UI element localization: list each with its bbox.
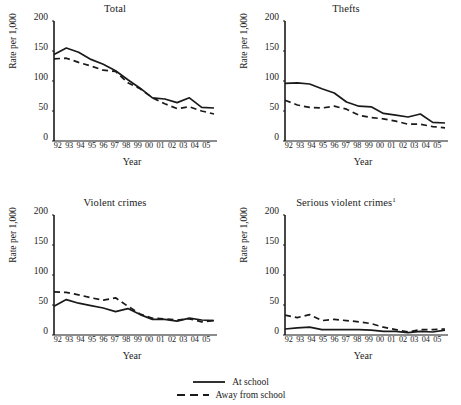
y-axis-tick-label: 150 (255, 236, 279, 246)
y-axis-tick-label: 150 (255, 42, 279, 52)
x-axis-tick-label: 04 (189, 141, 200, 150)
plot-svg (52, 18, 220, 144)
y-axis-tick-labels: 200150100500 (251, 212, 279, 332)
y-axis-tick-label: 50 (24, 296, 48, 306)
x-axis-tick-label: 96 (98, 335, 109, 344)
x-axis-tick-label: 99 (363, 335, 374, 344)
y-axis-tick-labels: 200150100500 (20, 212, 48, 332)
chart-panel-3: Violent crimesRate per 1,000200150100500… (0, 196, 230, 382)
plot-area (283, 212, 443, 332)
x-axis-tick-label: 97 (340, 141, 351, 150)
panel-title-footnote-marker: 1 (392, 196, 396, 204)
y-axis-tick-labels: 200150100500 (251, 18, 279, 138)
x-axis-tick-label: 96 (98, 141, 109, 150)
x-axis-tick-label: 98 (352, 141, 363, 150)
x-axis-tick-label: 04 (420, 141, 431, 150)
y-axis-label: Rate per 1,000 (8, 192, 18, 278)
y-axis-tick-label: 50 (255, 102, 279, 112)
x-axis-tick-label: 92 (52, 335, 63, 344)
y-axis-tick-label: 0 (24, 326, 48, 336)
x-axis-tick-label: 05 (431, 335, 442, 344)
plot-area (52, 18, 212, 138)
y-axis-tick-label: 0 (24, 132, 48, 142)
y-axis-tick-label: 100 (24, 72, 48, 82)
x-axis-tick-label: 02 (166, 335, 177, 344)
x-axis-tick-label: 92 (283, 141, 294, 150)
y-axis-tick-label: 100 (255, 266, 279, 276)
x-axis-tick-label: 98 (121, 335, 132, 344)
x-axis-label: Year (283, 350, 443, 361)
x-axis-tick-label: 04 (420, 335, 431, 344)
y-axis-tick-label: 0 (255, 326, 279, 336)
legend-entry: At school (192, 376, 269, 388)
x-axis-tick-label: 98 (121, 141, 132, 150)
x-axis-tick-label: 93 (63, 335, 74, 344)
x-axis-tick-label: 02 (397, 335, 408, 344)
chart-panel-4: Serious violent crimes1Rate per 1,000200… (231, 196, 461, 382)
x-axis-tick-label: 99 (132, 335, 143, 344)
x-axis-tick-label: 05 (431, 141, 442, 150)
y-axis-tick-label: 50 (24, 102, 48, 112)
y-axis-tick-label: 100 (24, 266, 48, 276)
y-axis-tick-label: 150 (24, 236, 48, 246)
x-axis-tick-label: 97 (340, 335, 351, 344)
plot-svg (283, 18, 451, 144)
y-axis-tick-label: 100 (255, 72, 279, 82)
x-axis-tick-label: 01 (386, 335, 397, 344)
x-axis-tick-label: 92 (283, 335, 294, 344)
y-axis-label: Rate per 1,000 (8, 0, 18, 84)
x-axis-tick-label: 93 (63, 141, 74, 150)
figure-root: TotalRate per 1,000200150100500929394959… (0, 0, 461, 405)
x-axis-tick-label: 99 (132, 141, 143, 150)
x-axis-tick-label: 02 (166, 141, 177, 150)
x-axis-tick-label: 05 (200, 141, 211, 150)
legend-label: At school (232, 377, 269, 387)
y-axis-label: Rate per 1,000 (239, 0, 249, 84)
x-axis-tick-labels: 9293949596979899000102030405 (52, 335, 212, 344)
x-axis-tick-label: 94 (75, 141, 86, 150)
x-axis-tick-label: 95 (86, 335, 97, 344)
x-axis-label: Year (52, 156, 212, 167)
x-axis-tick-label: 01 (155, 335, 166, 344)
x-axis-tick-label: 97 (109, 335, 120, 344)
x-axis-tick-label: 94 (306, 141, 317, 150)
chart-panel-1: TotalRate per 1,000200150100500929394959… (0, 2, 230, 188)
dashed-line-key (176, 390, 210, 400)
x-axis-tick-label: 95 (86, 141, 97, 150)
x-axis-tick-labels: 9293949596979899000102030405 (52, 141, 212, 150)
legend-label: Away from school (216, 390, 286, 400)
series-line-at-school (285, 327, 445, 332)
x-axis-tick-label: 04 (189, 335, 200, 344)
y-axis-tick-label: 200 (255, 12, 279, 22)
x-axis-tick-label: 00 (143, 141, 154, 150)
x-axis-label: Year (52, 350, 212, 361)
x-axis-tick-label: 93 (294, 335, 305, 344)
x-axis-tick-label: 00 (374, 335, 385, 344)
x-axis-tick-label: 03 (409, 335, 420, 344)
plot-svg (283, 212, 451, 338)
x-axis-tick-label: 03 (178, 141, 189, 150)
x-axis-tick-label: 01 (386, 141, 397, 150)
x-axis-tick-label: 99 (363, 141, 374, 150)
chart-legend: At schoolAway from school (0, 376, 461, 401)
x-axis-tick-label: 03 (178, 335, 189, 344)
x-axis-tick-label: 96 (329, 335, 340, 344)
y-axis-tick-label: 0 (255, 132, 279, 142)
plot-svg (52, 212, 220, 338)
x-axis-tick-label: 96 (329, 141, 340, 150)
plot-area (52, 212, 212, 332)
y-axis-tick-labels: 200150100500 (20, 18, 48, 138)
x-axis-tick-label: 94 (306, 335, 317, 344)
y-axis-label: Rate per 1,000 (239, 192, 249, 278)
legend-entry: Away from school (176, 389, 286, 401)
x-axis-tick-label: 02 (397, 141, 408, 150)
x-axis-tick-label: 01 (155, 141, 166, 150)
solid-line-key (192, 377, 226, 387)
x-axis-label: Year (283, 156, 443, 167)
x-axis-tick-label: 97 (109, 141, 120, 150)
x-axis-tick-label: 00 (374, 141, 385, 150)
y-axis-tick-label: 200 (255, 206, 279, 216)
chart-panel-2: TheftsRate per 1,00020015010050092939495… (231, 2, 461, 188)
series-line-away-from-school (54, 292, 214, 322)
x-axis-tick-label: 92 (52, 141, 63, 150)
